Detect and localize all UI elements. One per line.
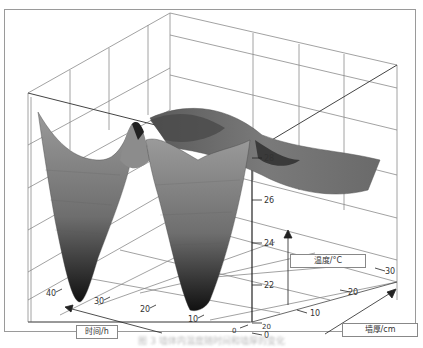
x-tick-30: 30 [94,297,104,306]
x-arrow-head-icon [65,305,73,312]
z-arrow-head-icon [284,230,292,238]
y-tick-30: 30 [385,267,395,276]
x-tick-20: 20 [140,305,150,314]
y-tick-20: 20 [348,288,358,297]
z-tick-22: 22 [264,281,274,290]
y-tick-10: 10 [310,309,320,318]
x-tick-40: 40 [46,289,56,298]
temperature-surface [38,108,380,310]
surface-plot: 28 26 24 22 20 0 10 20 30 40 30 20 10 0 [0,0,423,348]
z-tick-24: 24 [264,239,274,248]
z-axis-label: 温度/°C [290,254,366,268]
y-arrow-head-icon [387,289,396,298]
z-tick-28: 28 [264,154,274,163]
z-tick-20: 20 [262,323,271,331]
z-tick-26: 26 [264,196,274,205]
figure-caption: 图 3 墙体内温度随时间和墙厚的变化 [0,334,423,348]
x-tick-10: 10 [188,315,198,324]
